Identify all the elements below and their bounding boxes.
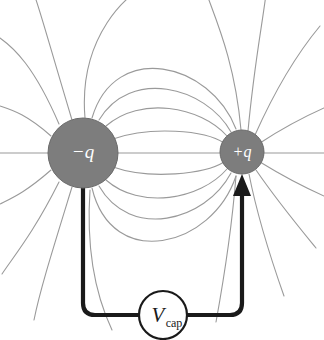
- positive-charge: +q: [220, 130, 264, 174]
- voltage-source-subscript: cap: [166, 316, 183, 330]
- negative-charge-label: −q: [72, 141, 95, 162]
- negative-charge: −q: [48, 118, 118, 188]
- voltage-source: V cap: [139, 291, 187, 339]
- positive-charge-label: +q: [233, 143, 252, 161]
- dipole-capacitor-figure: V cap −q +q: [0, 0, 324, 340]
- voltage-source-label: V: [152, 303, 167, 327]
- figure-canvas: V cap −q +q: [0, 0, 324, 340]
- figure-background: [0, 0, 324, 340]
